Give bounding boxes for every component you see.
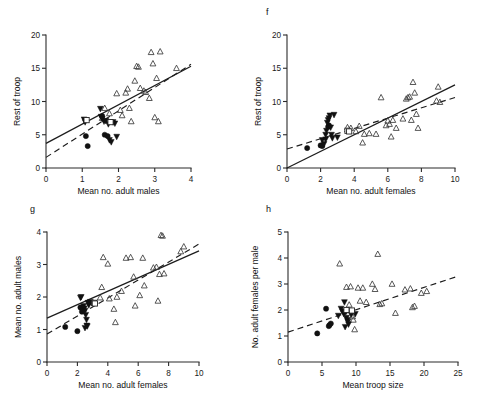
filled-down-triangle-marker <box>82 308 88 314</box>
open-triangle-marker <box>131 274 137 279</box>
open-square-marker <box>92 301 97 306</box>
x-tick-label: 5 <box>320 369 325 378</box>
open-triangle-marker <box>412 303 418 308</box>
open-triangle-marker <box>132 78 138 83</box>
filled-down-triangle-marker <box>82 120 88 126</box>
open-triangle-marker <box>400 116 406 121</box>
filled-down-triangle-marker <box>107 138 113 144</box>
filled-down-triangle-marker <box>98 114 104 120</box>
open-triangle-marker <box>128 254 134 259</box>
open-triangle-marker <box>111 306 117 311</box>
open-triangle-marker <box>141 88 147 93</box>
open-triangle-marker <box>140 255 146 260</box>
filled-down-triangle-marker <box>348 312 354 318</box>
filled-down-triangle-marker <box>82 325 88 331</box>
filled-down-triangle-marker <box>99 116 105 122</box>
open-triangle-marker <box>99 115 105 120</box>
x-tick-label: 15 <box>385 369 395 378</box>
open-triangle-marker <box>410 79 416 84</box>
open-triangle-marker <box>178 248 184 253</box>
open-triangle-marker <box>408 286 414 291</box>
open-triangle-marker <box>105 261 111 266</box>
x-tick-label: 0 <box>285 175 290 184</box>
open-triangle-marker <box>125 86 131 91</box>
open-triangle-marker <box>134 63 140 68</box>
x-axis-title: Mean no. adult females <box>78 380 167 390</box>
open-triangle-marker <box>435 84 441 89</box>
filled-circle-marker <box>323 306 328 311</box>
regression-line-dashed <box>46 64 191 157</box>
open-triangle-marker <box>126 105 132 110</box>
filled-down-triangle-marker <box>81 306 87 312</box>
x-axis-title: Mean troop size <box>342 380 403 390</box>
filled-down-triangle-marker <box>110 120 116 126</box>
filled-down-triangle-marker <box>338 306 344 312</box>
filled-down-triangle-marker <box>329 132 335 138</box>
open-triangle-marker <box>154 264 160 269</box>
x-tick-label: 6 <box>386 175 391 184</box>
filled-down-triangle-marker <box>329 136 335 142</box>
filled-circle-marker <box>100 114 105 119</box>
open-triangle-marker <box>366 130 372 135</box>
open-triangle-marker <box>123 90 129 95</box>
y-tick-label: 10 <box>272 98 282 107</box>
open-triangle-marker <box>158 232 164 237</box>
x-tick-label: 1 <box>80 175 85 184</box>
open-triangle-marker <box>360 140 366 145</box>
y-tick-label: 15 <box>272 64 282 73</box>
open-triangle-marker <box>387 121 393 126</box>
open-square-marker <box>84 118 89 123</box>
filled-down-triangle-marker <box>335 313 341 319</box>
open-triangle-marker <box>114 90 120 95</box>
filled-down-triangle-marker <box>81 117 87 123</box>
filled-circle-marker <box>105 133 110 138</box>
x-tick-label: 20 <box>419 369 429 378</box>
filled-down-triangle-marker <box>345 319 351 325</box>
filled-down-triangle-marker <box>86 303 92 309</box>
regression-line-solid <box>47 251 199 318</box>
open-triangle-marker <box>141 283 147 288</box>
open-triangle-marker <box>378 94 384 99</box>
open-triangle-marker <box>369 281 375 286</box>
regression-line-dashed <box>288 276 458 332</box>
x-axis-title: Mean no. adult females <box>326 186 415 196</box>
open-triangle-marker <box>410 304 416 309</box>
open-triangle-marker <box>434 98 440 103</box>
filled-down-triangle-marker <box>324 120 330 126</box>
open-triangle-marker <box>350 313 356 318</box>
x-tick-label: 2 <box>75 369 80 378</box>
filled-down-triangle-marker <box>344 315 350 321</box>
open-triangle-marker <box>356 123 362 128</box>
open-triangle-marker <box>383 122 389 127</box>
y-tick-label: 0 <box>36 358 41 367</box>
x-tick-label: 4 <box>352 175 357 184</box>
filled-down-triangle-marker <box>103 118 109 124</box>
open-triangle-marker <box>137 85 143 90</box>
open-square-marker <box>344 307 349 312</box>
filled-down-triangle-marker <box>343 310 349 316</box>
open-triangle-marker <box>389 281 395 286</box>
filled-circle-marker <box>75 329 80 334</box>
open-triangle-marker <box>355 285 361 290</box>
open-triangle-marker <box>372 286 378 291</box>
filled-down-triangle-marker <box>78 295 84 301</box>
y-tick-label: 5 <box>277 228 282 237</box>
regression-line-dashed <box>287 98 455 150</box>
open-triangle-marker <box>152 114 158 119</box>
filled-down-triangle-marker <box>347 309 353 315</box>
filled-down-triangle-marker <box>352 311 358 317</box>
x-tick-label: 4 <box>189 175 194 184</box>
filled-down-triangle-marker <box>78 295 84 301</box>
y-axis-title: Rest of troop <box>253 77 263 126</box>
open-triangle-marker <box>337 261 343 266</box>
open-triangle-marker <box>413 111 419 116</box>
filled-down-triangle-marker <box>81 304 87 310</box>
filled-circle-marker <box>63 324 68 329</box>
y-tick-label: 3 <box>36 261 41 270</box>
x-tick-label: 8 <box>419 175 424 184</box>
filled-down-triangle-marker <box>341 311 347 317</box>
filled-down-triangle-marker <box>328 125 334 131</box>
filled-down-triangle-marker <box>342 324 348 330</box>
filled-down-triangle-marker <box>87 299 93 305</box>
open-square-marker <box>345 128 350 133</box>
